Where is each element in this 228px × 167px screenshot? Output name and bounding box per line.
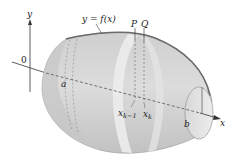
b-label: b: [184, 119, 190, 129]
origin-label: 0: [21, 55, 27, 65]
end-cap-b: [185, 87, 213, 139]
y-axis: [28, 19, 32, 92]
y-axis-label: y: [26, 9, 33, 19]
point-p-label: P: [130, 19, 138, 29]
point-q-label: Q: [141, 19, 149, 29]
x-axis-label: x: [220, 118, 225, 128]
a-label: a: [61, 79, 66, 89]
solid-of-revolution-figure: y 0 x y = f(x) P Q a b xk−1 xk: [0, 0, 228, 167]
curve-label: y = f(x): [81, 14, 116, 24]
x-axis-left: [12, 62, 46, 73]
